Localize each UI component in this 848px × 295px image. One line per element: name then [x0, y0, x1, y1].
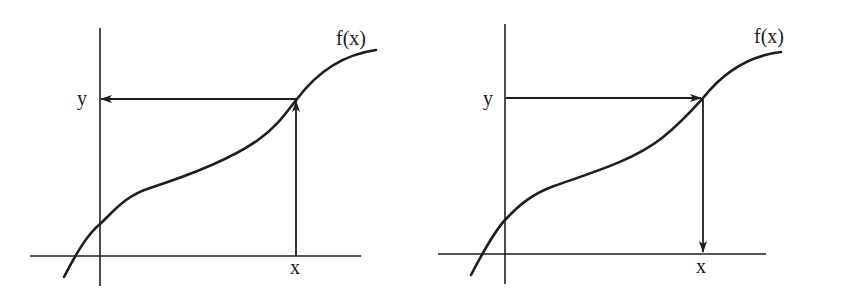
inverse-function-graph — [424, 0, 848, 295]
x-label: x — [696, 256, 706, 276]
forward-function-panel: f(x) y x — [0, 0, 424, 295]
curve-label: f(x) — [336, 28, 366, 48]
curve-label: f(x) — [754, 26, 784, 46]
y-label: y — [77, 88, 87, 108]
y-label: y — [483, 88, 493, 108]
function-curve — [471, 52, 781, 275]
x-label: x — [290, 257, 300, 277]
inverse-function-panel: f(x) y x — [424, 0, 848, 295]
function-curve — [64, 50, 376, 277]
